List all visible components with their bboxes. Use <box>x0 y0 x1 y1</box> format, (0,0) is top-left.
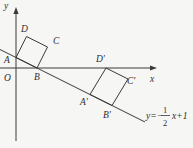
label-point-d: D <box>20 24 28 34</box>
figure-canvas: y x O D C A B D′ C′ A′ B′ y=− 1 2 x+1 <box>0 0 193 148</box>
label-point-c-prime: C′ <box>127 76 136 86</box>
square-a-prime-b-prime-c-prime-d-prime <box>90 68 128 106</box>
equation-suffix: x+1 <box>171 111 187 121</box>
x-axis-arrowhead-icon <box>150 65 157 70</box>
y-axis-label: y <box>3 1 9 11</box>
equation-numerator: 1 <box>163 105 167 115</box>
label-point-a: A <box>3 55 10 65</box>
y-axis-arrowhead-icon <box>13 7 18 14</box>
label-point-b-prime: B′ <box>103 110 112 120</box>
label-point-d-prime: D′ <box>95 54 106 64</box>
square-abcd <box>16 37 48 69</box>
label-point-a-prime: A′ <box>79 97 89 107</box>
x-axis-label: x <box>149 74 155 84</box>
equation-denominator: 2 <box>163 118 167 128</box>
label-point-c: C <box>53 36 60 46</box>
equation-label: y=− 1 2 x+1 <box>145 105 187 128</box>
equation-prefix: y=− <box>145 111 163 121</box>
geometry-figure: y x O D C A B D′ C′ A′ B′ y=− 1 2 x+1 <box>0 0 193 148</box>
label-point-b: B <box>34 72 40 82</box>
origin-label: O <box>4 73 11 83</box>
